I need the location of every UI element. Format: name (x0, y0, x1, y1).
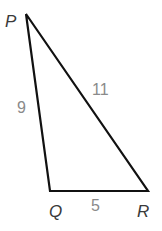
vertex-label-r: R (137, 202, 149, 221)
side-label-pr: 11 (92, 81, 109, 98)
side-label-qr: 5 (91, 197, 100, 214)
triangle-pqr (26, 14, 148, 191)
vertex-label-q: Q (49, 202, 62, 221)
triangle-diagram: P Q R 9 11 5 (0, 0, 162, 231)
side-label-pq: 9 (17, 99, 26, 116)
vertex-label-p: P (5, 12, 17, 31)
